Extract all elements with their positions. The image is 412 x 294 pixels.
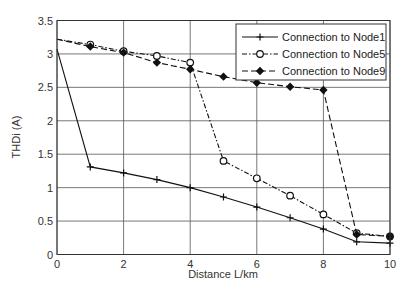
plus-marker [253, 204, 260, 211]
y-axis-label: THDi (A) [10, 116, 22, 159]
y-tick-label: 0 [47, 249, 53, 261]
plus-marker [120, 169, 127, 176]
plus-marker [220, 194, 227, 201]
x-axis-label: Distance L/km [188, 268, 258, 280]
open-circle-marker [187, 59, 194, 66]
x-tick-label: 10 [384, 258, 396, 270]
y-tick-label: 1 [47, 182, 53, 194]
open-circle-marker [253, 175, 260, 182]
open-circle-marker [287, 192, 294, 199]
legend-label: Connection to Node9 [282, 65, 385, 77]
legend: Connection to Node1Connection to Node5Co… [236, 24, 386, 80]
line-chart: 024681000.511.522.533.5 Distance L/km TH… [0, 0, 412, 294]
x-tick-label: 0 [54, 258, 60, 270]
open-circle-marker [320, 211, 327, 218]
diamond-marker [219, 72, 227, 80]
y-tick-label: 1.5 [38, 148, 53, 160]
diamond-marker [153, 58, 161, 66]
plus-marker [87, 163, 94, 170]
open-circle-marker [154, 53, 161, 60]
legend-label: Connection to Node5 [282, 48, 385, 60]
plus-marker [187, 184, 194, 191]
plus-marker [320, 226, 327, 233]
diamond-marker [286, 82, 294, 90]
x-tick-label: 8 [320, 258, 326, 270]
plus-marker [287, 214, 294, 221]
y-tick-label: 3 [47, 48, 53, 60]
y-tick-label: 3.5 [38, 15, 53, 27]
legend-label: Connection to Node1 [282, 31, 385, 43]
open-circle-marker [220, 158, 227, 165]
diamond-marker [186, 65, 194, 73]
x-tick-label: 2 [121, 258, 127, 270]
plus-marker [353, 238, 360, 245]
y-tick-label: 0.5 [38, 215, 53, 227]
y-tick-label: 2.5 [38, 81, 53, 93]
open-circle-marker [257, 51, 264, 58]
plus-marker [153, 176, 160, 183]
y-tick-label: 2 [47, 115, 53, 127]
